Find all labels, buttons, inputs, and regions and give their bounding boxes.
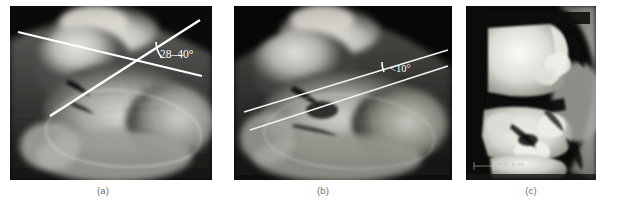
navicular-region — [20, 122, 80, 170]
panel-c-image — [466, 6, 596, 180]
ct-top-band — [486, 12, 590, 24]
angle-label-a: 28–40° — [160, 48, 194, 60]
caption-a: (a) — [63, 184, 143, 198]
panel-c-ct-reconstruction — [466, 6, 596, 180]
panel-a-radiograph: 28–40° — [10, 6, 212, 180]
fracture-cleft-2 — [518, 134, 538, 146]
angle-label-b: <10° — [390, 63, 411, 74]
ct-bottom-band — [466, 174, 596, 180]
figure-panel-group: 28–40° — [0, 0, 631, 213]
caption-c: (c) — [491, 184, 571, 198]
panel-a-image: 28–40° — [10, 6, 212, 180]
panel-b-image: <10° — [234, 6, 452, 180]
panel-b-radiograph: <10° — [234, 6, 452, 180]
navicular-region — [240, 112, 296, 164]
caption-b: (b) — [283, 184, 363, 198]
bone-fragment-3 — [486, 113, 514, 135]
bone-fragment-6 — [535, 67, 557, 85]
